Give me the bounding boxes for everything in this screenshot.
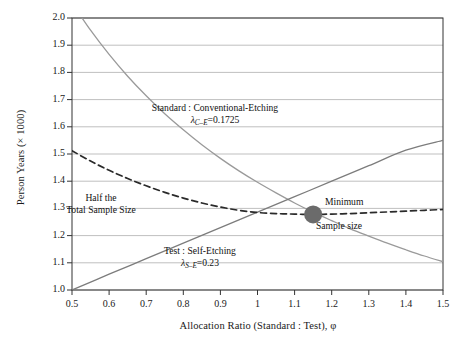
standard-curve-annotation-line1: Standard : Conventional-Etching [110, 102, 320, 114]
minimum-label: Minimum [325, 196, 363, 208]
x-tick-label-0.7: 0.7 [129, 298, 163, 309]
standard-curve-annotation: Standard : Conventional-Etching λC–E=0.1… [110, 102, 320, 128]
minimum-label-text: Minimum [325, 196, 363, 207]
chart-figure: Person Years (× 1000) Allocation Ratio (… [0, 0, 467, 346]
half-total-sample-size-annotation: Half the Total Sample Size [46, 192, 156, 215]
series-line-0 [72, 3, 443, 262]
y-tick-label-1.5: 1.5 [31, 147, 65, 158]
half-total-sample-size-line1: Half the [46, 192, 156, 204]
y-axis-title: Person Years (× 1000) [15, 88, 26, 228]
x-tick-label-1.2: 1.2 [315, 298, 349, 309]
y-tick-label-2.0: 2.0 [31, 11, 65, 22]
lambda-subscript-se: S–E [185, 262, 197, 270]
y-tick-label-1.1: 1.1 [31, 256, 65, 267]
lambda-value-se: =0.23 [197, 257, 219, 268]
half-total-sample-size-line2: Total Sample Size [46, 204, 156, 216]
x-tick-label-1: 1 [241, 298, 275, 309]
y-tick-label-1.4: 1.4 [31, 174, 65, 185]
x-tick-label-1.4: 1.4 [389, 298, 423, 309]
y-tick-label-1.9: 1.9 [31, 38, 65, 49]
sample-size-label-text: Sample size [316, 220, 362, 231]
lambda-subscript-ce: C–E [195, 119, 208, 127]
y-tick-label-1.6: 1.6 [31, 120, 65, 131]
y-tick-label-1.2: 1.2 [31, 229, 65, 240]
chart-canvas [0, 0, 467, 346]
y-tick-label-1.8: 1.8 [31, 65, 65, 76]
x-tick-label-0.9: 0.9 [203, 298, 237, 309]
test-line-annotation: Test : Self-Etching λS–E=0.23 [110, 245, 290, 271]
standard-curve-annotation-line2: λC–E=0.1725 [110, 114, 320, 128]
x-tick-label-0.5: 0.5 [55, 298, 89, 309]
x-tick-label-0.8: 0.8 [166, 298, 200, 309]
y-tick-label-1.7: 1.7 [31, 93, 65, 104]
x-axis-title: Allocation Ratio (Standard : Test), φ [72, 320, 444, 331]
test-line-annotation-line1: Test : Self-Etching [110, 245, 290, 257]
x-tick-label-1.3: 1.3 [352, 298, 386, 309]
x-tick-label-1.5: 1.5 [426, 298, 460, 309]
x-tick-label-1.1: 1.1 [278, 298, 312, 309]
y-tick-label-1.0: 1.0 [31, 283, 65, 294]
test-line-annotation-line2: λS–E=0.23 [110, 257, 290, 271]
x-tick-label-0.6: 0.6 [92, 298, 126, 309]
sample-size-label: Sample size [316, 220, 362, 232]
lambda-value-ce: =0.1725 [208, 114, 240, 125]
